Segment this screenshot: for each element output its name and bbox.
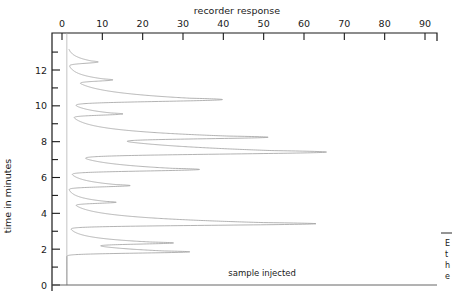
x-tick-label: 60: [298, 18, 310, 29]
y-tick-label: 4: [41, 208, 47, 219]
y-tick-label: 8: [41, 136, 47, 147]
y-tick-marks: [52, 52, 60, 285]
y-tick-label: 12: [35, 65, 47, 76]
x-tick-marks: [62, 33, 425, 40]
sample-injected-label: sample injected: [228, 268, 296, 278]
y-tick-label: 0: [41, 280, 47, 291]
y-tick-label: 6: [41, 172, 47, 183]
x-tick-label: 90: [419, 18, 431, 29]
side-note-line: h: [445, 261, 450, 270]
x-tick-label-group: 0102030405060708090: [59, 18, 431, 29]
axis-frame: [52, 33, 437, 291]
x-tick-label: 70: [338, 18, 350, 29]
y-tick-label: 10: [35, 100, 47, 111]
y-axis-title: time in minutes: [2, 159, 13, 234]
chromatogram-trace: [67, 49, 327, 285]
side-note-group: Ethe: [441, 233, 452, 281]
x-tick-label: 20: [137, 18, 149, 29]
side-note-line: e: [445, 272, 450, 281]
x-tick-label: 0: [59, 18, 65, 29]
x-tick-label: 30: [177, 18, 189, 29]
chromatogram-figure: recorder response time in minutes 010203…: [0, 0, 452, 303]
chromatogram-svg: recorder response time in minutes 010203…: [0, 0, 452, 303]
y-tick-label-group: 024681012: [35, 65, 47, 291]
x-tick-label: 80: [379, 18, 391, 29]
side-note-line: t: [445, 250, 448, 259]
side-note-text: Ethe: [445, 239, 450, 281]
x-axis-title: recorder response: [194, 5, 280, 16]
y-tick-label: 2: [41, 244, 47, 255]
side-note-line: E: [445, 239, 450, 248]
x-tick-label: 50: [258, 18, 270, 29]
x-tick-label: 40: [217, 18, 229, 29]
x-tick-label: 10: [96, 18, 108, 29]
